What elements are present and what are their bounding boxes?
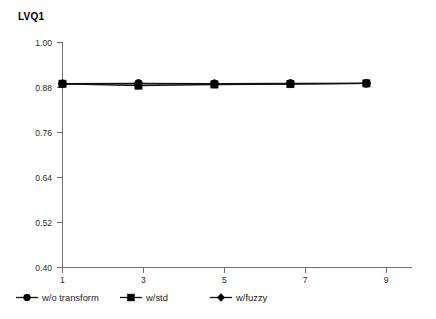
y-tick-label-5: 0.52 xyxy=(35,218,52,228)
x-tick-label-4: 7 xyxy=(303,275,308,285)
legend-item-wfuzzy[interactable]: w/fuzzy xyxy=(210,292,268,303)
chart-legend: w/o transform w/std w/fuzzy xyxy=(16,292,268,303)
x-tick-label-2: 3 xyxy=(141,275,146,285)
y-tick-label-1: 1.00 xyxy=(35,38,52,48)
chart-canvas: 1.00 0.88 0.76 0.64 0.52 0.40 1 3 5 7 9 xyxy=(0,0,436,319)
circle-marker-icon xyxy=(24,294,31,301)
y-tick-label-2: 0.88 xyxy=(35,83,52,93)
plot-series-layer xyxy=(58,79,370,89)
x-tick-label-3: 5 xyxy=(222,275,227,285)
y-tick-label-3: 0.76 xyxy=(35,128,52,138)
chart-figure: LVQ1 1.00 0.88 0.76 0.64 0.52 0.40 xyxy=(0,0,436,319)
square-marker-icon xyxy=(128,294,135,301)
y-tick-label-6: 0.40 xyxy=(35,263,52,273)
legend-item-wo-transform[interactable]: w/o transform xyxy=(16,292,99,303)
legend-label-wo-transform: w/o transform xyxy=(41,292,99,303)
legend-label-wfuzzy: w/fuzzy xyxy=(235,292,268,303)
legend-item-wstd[interactable]: w/std xyxy=(120,292,168,303)
y-tick-label-4: 0.64 xyxy=(35,173,52,183)
diamond-marker-icon xyxy=(217,294,224,302)
y-tick-group: 1.00 0.88 0.76 0.64 0.52 0.40 xyxy=(35,38,62,273)
x-tick-group: 1 3 5 7 9 xyxy=(60,268,389,286)
x-tick-label-1: 1 xyxy=(60,275,65,285)
x-tick-label-5: 9 xyxy=(384,275,389,285)
series-w-fuzzy xyxy=(58,79,370,88)
legend-label-wstd: w/std xyxy=(145,292,168,303)
